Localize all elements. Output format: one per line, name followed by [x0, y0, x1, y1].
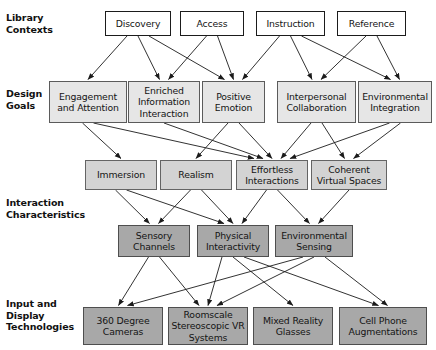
node-label: Access	[197, 18, 228, 29]
node-realism[interactable]: Realism	[160, 160, 232, 190]
edge-interpersonal-collaboration-to-coherent-virtual-spaces	[322, 123, 345, 159]
edge-instruction-to-positive-emotion	[243, 36, 280, 80]
edge-effortless-interactions-to-physical-interactivity	[242, 190, 267, 224]
row-label-library-contexts: Library Contexts	[6, 12, 53, 35]
node-label: Physical Interactivity	[206, 230, 260, 252]
node-label: Effortless Interactions	[245, 164, 298, 186]
node-label: Enriched Information Interaction	[138, 85, 190, 119]
row-label-interaction-characteristics: Interaction Characteristics	[6, 197, 85, 220]
node-label: Positive Emotion	[215, 91, 252, 113]
edge-environmental-sensing-to-roomscale-stereoscopic-vr-systems	[217, 257, 314, 306]
node-roomscale-stereoscopic-vr-systems[interactable]: Roomscale Stereoscopic VR Systems	[168, 307, 248, 345]
edge-discovery-to-enriched-information-interaction	[138, 36, 160, 80]
node-label: Interpersonal Collaboration	[286, 91, 346, 113]
node-access[interactable]: Access	[180, 11, 244, 36]
node-label: Sensory Channels	[133, 230, 175, 252]
node-label: Environmental Integration	[362, 91, 428, 113]
node-coherent-virtual-spaces[interactable]: Coherent Virtual Spaces	[311, 160, 387, 190]
edge-engagement-and-attention-to-immersion	[83, 123, 122, 159]
node-reference[interactable]: Reference	[337, 11, 406, 36]
node-positive-emotion[interactable]: Positive Emotion	[202, 81, 265, 123]
edge-effortless-interactions-to-environmental-sensing	[278, 190, 310, 224]
node-label: Coherent Virtual Spaces	[317, 164, 381, 186]
edge-enriched-information-interaction-to-effortless-interactions	[164, 123, 263, 159]
node-interpersonal-collaboration[interactable]: Interpersonal Collaboration	[277, 81, 356, 123]
node-label: 360 Degree Cameras	[96, 315, 149, 337]
edge-sensory-channels-to-roomscale-stereoscopic-vr-systems	[160, 257, 200, 306]
edge-discovery-to-engagement-and-attention	[88, 36, 127, 80]
edge-reference-to-interpersonal-collaboration	[321, 36, 366, 80]
node-label: Immersion	[97, 169, 145, 180]
node-discovery[interactable]: Discovery	[105, 11, 171, 36]
node-sensory-channels[interactable]: Sensory Channels	[118, 225, 190, 257]
node-engagement-and-attention[interactable]: Engagement and Attention	[49, 81, 127, 123]
node-label: Discovery	[116, 18, 161, 29]
edge-environmental-integration-to-effortless-interactions	[290, 123, 390, 159]
node-label: Realism	[178, 169, 213, 180]
edge-coherent-virtual-spaces-to-environmental-sensing	[319, 190, 350, 224]
node-instruction[interactable]: Instruction	[256, 11, 325, 36]
edge-realism-to-sensory-channels	[159, 190, 191, 224]
edge-immersion-to-physical-interactivity	[127, 190, 225, 224]
edge-immersion-to-sensory-channels	[116, 190, 150, 224]
edge-realism-to-physical-interactivity	[202, 190, 234, 224]
edge-interpersonal-collaboration-to-effortless-interactions	[281, 123, 311, 159]
node-mixed-reality-glasses[interactable]: Mixed Reality Glasses	[253, 307, 333, 345]
edge-environmental-sensing-to-360-degree-cameras	[128, 257, 304, 306]
diagram-canvas: Library ContextsDesign GoalsInteraction …	[0, 0, 436, 350]
node-environmental-integration[interactable]: Environmental Integration	[358, 81, 432, 123]
node-360-degree-cameras[interactable]: 360 Degree Cameras	[83, 307, 163, 345]
row-label-design-goals: Design Goals	[6, 88, 42, 111]
edge-access-to-enriched-information-interaction	[169, 36, 207, 80]
edge-physical-interactivity-to-roomscale-stereoscopic-vr-systems	[208, 257, 222, 306]
node-immersion[interactable]: Immersion	[85, 160, 157, 190]
edge-physical-interactivity-to-cell-phone-augmentations	[244, 257, 379, 306]
edge-reference-to-environmental-integration	[377, 36, 400, 80]
node-label: Reference	[349, 18, 394, 29]
node-label: Cell Phone Augmentations	[349, 315, 418, 337]
edge-physical-interactivity-to-mixed-reality-glasses	[233, 257, 293, 306]
node-label: Engagement and Attention	[57, 91, 118, 113]
edge-environmental-integration-to-coherent-virtual-spaces	[354, 123, 401, 159]
node-cell-phone-augmentations[interactable]: Cell Phone Augmentations	[339, 307, 427, 345]
row-label-input-display-technologies: Input and Display Technologies	[6, 298, 74, 333]
edge-environmental-sensing-to-cell-phone-augmentations	[325, 257, 388, 306]
node-label: Mixed Reality Glasses	[263, 315, 323, 337]
edge-access-to-positive-emotion	[218, 36, 234, 80]
node-enriched-information-interaction[interactable]: Enriched Information Interaction	[128, 81, 200, 123]
edge-instruction-to-interpersonal-collaboration	[291, 36, 313, 80]
node-label: Instruction	[266, 18, 314, 29]
edge-engagement-and-attention-to-effortless-interactions	[94, 123, 255, 159]
node-environmental-sensing[interactable]: Environmental Sensing	[275, 225, 353, 257]
edge-instruction-to-environmental-integration	[302, 36, 391, 80]
edge-positive-emotion-to-realism	[196, 123, 228, 159]
node-effortless-interactions[interactable]: Effortless Interactions	[236, 160, 308, 190]
edge-positive-emotion-to-effortless-interactions	[239, 123, 272, 159]
node-physical-interactivity[interactable]: Physical Interactivity	[197, 225, 269, 257]
node-label: Environmental Sensing	[281, 230, 347, 252]
edge-discovery-to-positive-emotion	[149, 36, 225, 80]
node-label: Roomscale Stereoscopic VR Systems	[171, 309, 244, 343]
edge-sensory-channels-to-360-degree-cameras	[119, 257, 149, 306]
